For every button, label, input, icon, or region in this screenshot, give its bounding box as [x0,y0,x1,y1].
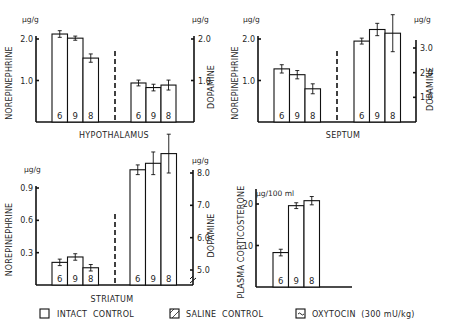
bar-intact: 6 [273,249,289,287]
sample-size-label: 9 [73,111,78,121]
y-tick-label: 2.0 [198,35,211,44]
bar-intact-rect [130,170,146,285]
y-axis-label-left: NOREPINEPHRINE [5,203,14,277]
sample-size-label: 8 [166,111,171,121]
y-tick-label: 3.0 [420,44,433,53]
bar-oxytocin: 8 [304,197,320,287]
bar-oxytocin: 8 [161,134,177,285]
bar-saline: 9 [68,254,84,285]
sample-size-label: 6 [278,276,283,286]
bar-saline: 9 [146,84,161,122]
bar-saline: 9 [370,23,386,122]
y-axis-label-left: PLASMA CORTICOSTERONE [237,185,246,298]
y-axis-unit: µg/g [22,15,39,24]
bar-saline: 9 [146,152,162,285]
sample-size-label: 8 [88,111,93,121]
y-axis-label-left: NOREPINEPHRINE [5,46,14,120]
panel-title: SEPTUM [326,131,360,140]
y-axis-unit: µg/g [192,156,209,165]
panel-striatum: STRIATUM0.30.60.9µg/gNOREPINEPHRINE6985.… [5,134,216,304]
legend-label-oxytocin: OXYTOCIN (300 mU/kg) [312,310,415,319]
panel-hypothalamus: HYPOTHALAMUS1.02.0µg/gNOREPINEPHRINE6981… [5,15,216,140]
sample-size-label: 6 [136,111,141,121]
y-tick-label: 0.3 [20,249,33,258]
bar-saline-rect [370,30,386,123]
sample-size-label: 9 [294,276,299,286]
legend-label-intact: INTACT CONTROL [57,310,134,319]
y-tick-label: 1.0 [242,77,255,86]
panel-title: HYPOTHALAMUS [79,131,149,140]
bar-oxytocin: 8 [385,15,401,122]
bar-intact: 6 [52,31,68,122]
sample-size-label: 9 [151,111,156,121]
sample-size-label: 6 [135,274,140,284]
legend-item-oxytocin: OXYTOCIN (300 mU/kg) [296,309,415,319]
y-tick-label: 7.0 [197,201,210,210]
y-tick-label: 0.6 [20,216,33,225]
panel-title: STRIATUM [91,295,134,304]
sample-size-label: 8 [390,111,395,121]
figure: HYPOTHALAMUS1.02.0µg/gNOREPINEPHRINE6981… [0,0,454,336]
hatched-box-icon [170,309,179,318]
bar-saline: 9 [68,36,84,122]
bar-oxytocin: 8 [83,54,99,122]
y-axis-label-left: NOREPINEPHRINE [231,46,240,120]
bar-saline-rect [68,38,84,122]
bar-intact-rect [354,41,370,122]
legend: INTACT CONTROL SALINE CONTROL OXYTOCIN (… [40,309,415,319]
bar-oxytocin: 8 [161,80,176,122]
panel-plasma-corticosterone: 1020µg/100 mlPLASMA CORTICOSTERONE698 [237,185,352,298]
bar-intact: 6 [52,259,68,285]
bar-saline-rect [146,163,162,285]
y-tick-label: 1.0 [20,77,33,86]
bar-oxytocin: 8 [83,265,99,285]
sample-size-label: 6 [359,111,364,121]
sample-size-label: 9 [73,274,78,284]
legend-label-saline: SALINE CONTROL [186,310,263,319]
y-axis-unit: µg/100 ml [256,189,294,198]
sample-size-label: 6 [279,111,284,121]
bar-oxytocin-rect [304,201,320,287]
y-tick-label: 0.9 [20,184,33,193]
bar-intact: 6 [274,65,290,122]
open-box-icon [40,309,49,318]
y-axis-unit: µg/g [243,15,260,24]
y-tick-label: 2.0 [20,35,33,44]
sample-size-label: 6 [57,274,62,284]
bar-oxytocin: 8 [305,84,321,122]
sample-size-label: 6 [57,111,62,121]
y-axis-unit: µg/g [24,165,41,174]
sample-size-label: 8 [166,274,171,284]
legend-item-intact: INTACT CONTROL [40,309,134,319]
sample-size-label: 9 [151,274,156,284]
legend-item-saline: SALINE CONTROL [170,309,263,319]
sample-size-label: 9 [375,111,380,121]
panel-septum: SEPTUM1.02.0µg/gNOREPINEPHRINE6981.02.03… [231,15,435,140]
bar-saline: 9 [290,71,306,122]
bar-intact: 6 [354,38,370,122]
y-axis-unit: µg/g [192,15,209,24]
y-axis-label-right: DOPAMINE [207,213,216,257]
y-tick-label: 2.0 [242,35,255,44]
sample-size-label: 8 [310,111,315,121]
bar-saline: 9 [289,203,305,287]
sample-size-label: 8 [309,276,314,286]
bar-intact-rect [52,34,68,122]
y-axis-label-right: DOPAMINE [426,67,435,111]
sample-size-label: 9 [295,111,300,121]
bar-saline-rect [289,206,305,287]
y-axis-label-right: DOPAMINE [207,65,216,109]
y-tick-label: 8.0 [197,169,210,178]
bar-intact: 6 [130,165,146,285]
y-tick-label: 5.0 [197,266,210,275]
sample-size-label: 8 [88,274,93,284]
y-axis-unit: µg/g [414,15,431,24]
bar-intact: 6 [131,80,146,122]
